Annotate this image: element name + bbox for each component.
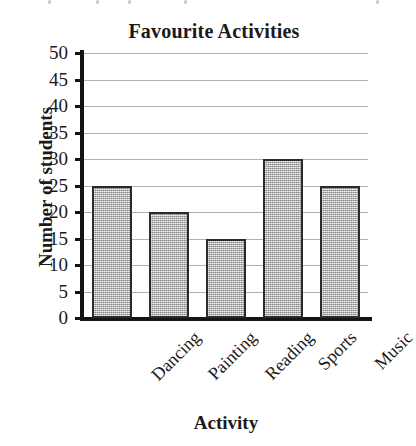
x-tick-label: Sports — [314, 328, 359, 373]
bar — [320, 186, 360, 318]
gridline — [84, 53, 368, 54]
y-tick-label: 45 — [22, 70, 68, 89]
y-tick-label: 35 — [22, 123, 68, 142]
y-tick-label: 25 — [22, 176, 68, 195]
y-tick-label: 20 — [22, 202, 68, 221]
bar — [149, 212, 189, 318]
gridline — [84, 106, 368, 107]
gridline — [84, 159, 368, 160]
x-tick-label: Music — [371, 328, 416, 373]
bar — [206, 239, 246, 318]
y-tick-mark — [75, 291, 84, 294]
y-tick-mark — [75, 185, 84, 188]
gridline — [84, 133, 368, 134]
y-tick-mark — [75, 211, 84, 214]
y-tick-mark — [75, 105, 84, 108]
y-tick-mark — [75, 317, 84, 320]
y-tick-label: 5 — [22, 282, 68, 301]
bar — [263, 159, 303, 318]
y-tick-label: 40 — [22, 96, 68, 115]
chart-title: Favourite Activities — [96, 20, 332, 43]
bar — [92, 186, 132, 318]
gridline — [84, 80, 368, 81]
y-tick-label: 30 — [22, 149, 68, 168]
y-tick-label: 50 — [22, 43, 68, 62]
y-tick-mark — [75, 264, 84, 267]
y-tick-label: 10 — [22, 255, 68, 274]
y-tick-mark — [75, 238, 84, 241]
y-tick-label: 15 — [22, 229, 68, 248]
y-tick-mark — [75, 52, 84, 55]
y-tick-mark — [75, 158, 84, 161]
y-tick-label: 0 — [22, 308, 68, 327]
x-tick-label: Painting — [205, 328, 260, 383]
x-axis-title: Activity — [84, 412, 368, 434]
y-tick-mark — [75, 132, 84, 135]
x-tick-label: Dancing — [148, 328, 204, 384]
x-tick-label: Reading — [262, 328, 317, 383]
y-tick-mark — [75, 79, 84, 82]
